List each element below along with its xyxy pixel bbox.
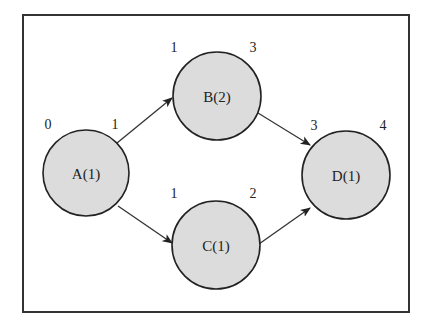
node-c-label: C(1) bbox=[202, 238, 230, 255]
node-c-start-time: 1 bbox=[171, 186, 178, 201]
network-diagram: A(1) 0 1 B(2) 1 3 C(1) 1 2 D(1) 3 4 bbox=[0, 0, 426, 328]
edge-a-to-b bbox=[117, 98, 172, 143]
node-d-label: D(1) bbox=[332, 168, 360, 185]
edge-b-to-d bbox=[258, 113, 310, 145]
node-a: A(1) 0 1 bbox=[43, 117, 129, 217]
edge-a-to-c bbox=[118, 206, 172, 243]
node-b-label: B(2) bbox=[203, 89, 231, 106]
node-c: C(1) 1 2 bbox=[171, 186, 261, 290]
node-c-end-time: 2 bbox=[250, 186, 257, 201]
node-a-end-time: 1 bbox=[112, 117, 119, 132]
node-d-start-time: 3 bbox=[311, 118, 318, 133]
node-a-start-time: 0 bbox=[45, 117, 52, 132]
node-a-label: A(1) bbox=[72, 166, 100, 183]
node-b-end-time: 3 bbox=[250, 40, 257, 55]
node-d-end-time: 4 bbox=[380, 118, 387, 133]
node-b-start-time: 1 bbox=[171, 40, 178, 55]
node-b: B(2) 1 3 bbox=[171, 40, 262, 141]
edge-c-to-d bbox=[259, 208, 310, 244]
node-d: D(1) 3 4 bbox=[302, 118, 390, 220]
